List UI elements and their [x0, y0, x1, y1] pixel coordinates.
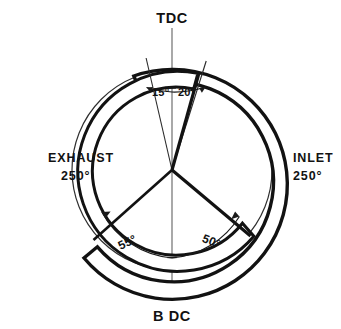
hub-spoke-exhaust-open	[94, 170, 173, 240]
exhaust-label-duration: 250°	[61, 169, 90, 183]
bdc-label: B DC	[153, 308, 191, 324]
exhaust-label-name: EXHAUST	[48, 151, 114, 165]
hub-spoke-inlet-close	[172, 170, 251, 236]
angle-label-15: 15°	[152, 86, 169, 98]
exhaust-band-shape	[78, 71, 254, 271]
inlet-label-duration: 250°	[293, 169, 322, 183]
valve-timing-diagram: TDC B DC EXHAUST 250° INLET 250° 15° 20°…	[0, 0, 341, 329]
dimension-arrow-20	[199, 87, 205, 93]
valve-timing-svg: TDC B DC EXHAUST 250° INLET 250° 15° 20°…	[0, 0, 341, 329]
angle-label-20: 20°	[178, 86, 195, 98]
tdc-label: TDC	[156, 10, 188, 26]
inlet-label-name: INLET	[293, 151, 334, 165]
exhaust-band	[78, 71, 254, 271]
